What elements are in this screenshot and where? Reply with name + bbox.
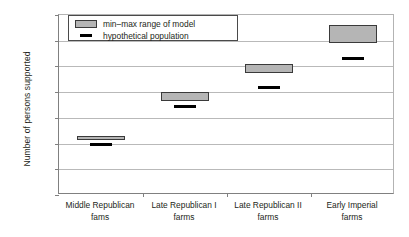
gridline (59, 92, 393, 93)
y-axis-tick-mark (55, 92, 59, 93)
x-axis-category-label: Late Republican Ifarms (142, 200, 226, 234)
x-axis-category-label: Early Imperialfarms (310, 200, 394, 234)
chart-legend: min–max range of model hypothetical popu… (68, 15, 238, 41)
x-axis-category-separator (311, 193, 312, 197)
x-axis-category-separator (227, 193, 228, 197)
legend-label-range: min–max range of model (103, 19, 195, 29)
hypothetical-population-marker (174, 105, 196, 108)
x-axis-labels: Middle RepublicanfamsLate Republican Ifa… (58, 200, 394, 234)
y-axis-tick-mark (55, 169, 59, 170)
x-axis-category-label: Late Republican IIfarms (226, 200, 310, 234)
x-axis-category-label: Middle Republicanfams (58, 200, 142, 234)
legend-dash-icon (73, 34, 99, 37)
range-box (245, 64, 293, 73)
y-axis-tick-mark (55, 66, 59, 67)
legend-swatch-icon (73, 20, 99, 28)
range-box (77, 136, 125, 140)
plot-area: 020406080100120140 (58, 14, 394, 194)
chart-root: Number of persons supported 020406080100… (0, 0, 409, 237)
legend-label-hypothetical: hypothetical population (103, 31, 189, 41)
y-axis-tick-mark (55, 15, 59, 16)
y-axis-tick-mark (55, 195, 59, 196)
y-axis-tick-mark (55, 144, 59, 145)
hypothetical-population-marker (90, 143, 112, 146)
y-axis-tick-mark (55, 118, 59, 119)
x-axis-category-separator (143, 193, 144, 197)
legend-entry-hypothetical: hypothetical population (73, 30, 233, 41)
gridline (59, 169, 393, 170)
gridline (59, 66, 393, 67)
hypothetical-population-marker (342, 57, 364, 60)
range-box (329, 25, 377, 43)
y-axis-title: Number of persons supported (22, 24, 32, 194)
hypothetical-population-marker (258, 86, 280, 89)
gridline (59, 118, 393, 119)
range-box (161, 92, 209, 101)
y-axis-tick-mark (55, 41, 59, 42)
legend-entry-range: min–max range of model (73, 18, 233, 29)
